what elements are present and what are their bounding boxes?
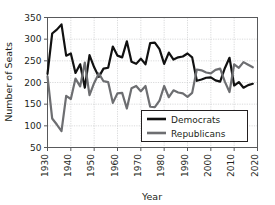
x-axis-tick-labels: 1930194019501960197019801990200020102020 (40, 154, 260, 177)
x-tick-label: 2010 (226, 154, 236, 177)
x-tick-label: 2000 (203, 154, 213, 177)
y-tick-label: 250 (24, 56, 41, 66)
x-tick-label: 1940 (63, 154, 73, 177)
chart-legend[interactable]: Democrats Republicans (142, 111, 248, 142)
x-tick-label: 1990 (180, 154, 190, 177)
x-tick-label: 2020 (250, 154, 260, 177)
y-axis-title: Number of Seats (3, 42, 14, 122)
horizontal-gridlines (48, 18, 258, 126)
y-tick-label: 50 (30, 143, 42, 153)
x-tick-label: 1930 (40, 154, 50, 177)
x-tick-label: 1970 (133, 154, 143, 177)
y-tick-label: 100 (24, 121, 41, 131)
x-tick-label: 1980 (156, 154, 166, 177)
x-axis-ticks (48, 148, 258, 152)
line-chart: 50100150200250300350 1930194019501960197… (0, 0, 275, 205)
y-axis-tick-labels: 50100150200250300350 (24, 13, 41, 153)
x-axis-title: Year (141, 191, 162, 202)
y-axis-ticks (44, 18, 48, 148)
y-tick-label: 350 (24, 13, 41, 23)
chart-figure: 50100150200250300350 1930194019501960197… (0, 0, 275, 205)
y-tick-label: 300 (24, 34, 41, 44)
y-tick-label: 200 (24, 78, 41, 88)
legend-label-democrats: Democrats (171, 115, 220, 125)
x-tick-label: 1950 (86, 154, 96, 177)
y-tick-label: 150 (24, 99, 41, 109)
series-line-democrats (48, 24, 253, 87)
x-tick-label: 1960 (110, 154, 120, 177)
legend-label-republicans: Republicans (171, 129, 226, 139)
